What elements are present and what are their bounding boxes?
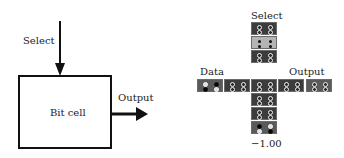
column-cell xyxy=(251,36,277,49)
quantum-dot-icon xyxy=(214,87,219,92)
qca-data-label: Data xyxy=(200,66,224,77)
quantum-dot-icon xyxy=(203,87,208,92)
quantum-dot-icon xyxy=(257,87,262,92)
row-cell xyxy=(224,79,250,92)
quantum-dot-icon xyxy=(268,87,273,92)
row-cell xyxy=(251,79,277,92)
quantum-dot-icon xyxy=(268,101,273,106)
quantum-dot-icon xyxy=(268,58,273,63)
quantum-dot-icon xyxy=(284,87,289,92)
quantum-dot-icon xyxy=(230,87,235,92)
select-label: Select xyxy=(23,35,55,46)
quantum-dot-icon xyxy=(269,40,272,43)
row-cell xyxy=(278,79,304,92)
quantum-dot-icon xyxy=(257,115,262,120)
quantum-dot-icon xyxy=(268,115,273,120)
quantum-dot-icon xyxy=(268,129,273,134)
data-input-cell xyxy=(197,79,223,92)
quantum-dot-icon xyxy=(258,45,261,48)
column-cell xyxy=(251,93,277,106)
output-arrowhead-icon xyxy=(136,107,148,121)
quantum-dot-icon xyxy=(258,40,261,43)
column-cell xyxy=(251,107,277,120)
quantum-dot-icon xyxy=(312,87,317,92)
output-cell xyxy=(306,79,332,92)
quantum-dot-icon xyxy=(241,87,246,92)
bit-cell-label: Bit cell xyxy=(50,107,86,118)
quantum-dot-icon xyxy=(269,45,272,48)
qca-select-label: Select xyxy=(251,10,283,21)
quantum-dot-icon xyxy=(268,30,273,35)
qca-value-label: −1.00 xyxy=(251,138,282,149)
quantum-dot-icon xyxy=(257,58,262,63)
quantum-dot-icon xyxy=(257,30,262,35)
quantum-dot-icon xyxy=(257,101,262,106)
quantum-dot-icon xyxy=(295,87,300,92)
quantum-dot-icon xyxy=(323,87,328,92)
column-cell xyxy=(251,22,277,35)
column-cell xyxy=(251,50,277,63)
quantum-dot-icon xyxy=(257,129,262,134)
column-cell xyxy=(251,121,277,134)
qca-output-label: Output xyxy=(289,66,325,77)
select-arrowhead-icon xyxy=(55,63,65,76)
output-label: Output xyxy=(118,92,154,103)
